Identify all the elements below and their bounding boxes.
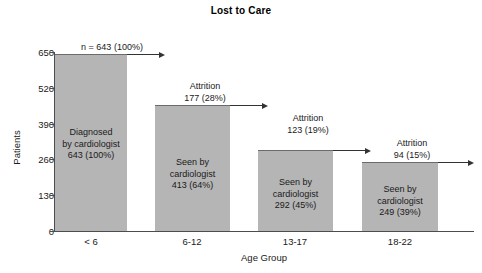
arrow-shaft-18-22 [438,162,468,163]
x-axis-line [54,231,474,232]
arrow-shaft-13-17 [333,150,365,151]
bar-label-line2: cardiologist [362,196,438,208]
chart-title: Lost to Care [0,5,482,16]
y-tick-mark-520 [50,88,54,89]
chart-figure: Lost to Care Patients 0 130 260 390 520 … [0,0,482,273]
y-tick-mark-650 [50,52,54,53]
x-axis-title: Age Group [54,252,474,263]
y-tick-label-0: 0 [20,226,54,237]
arrow-head-icon-18-22 [468,160,474,166]
annotation-attrition-13-17: Attrition 123 (19%) [287,113,329,136]
bar-label-line2: cardiologist [155,169,230,181]
y-tick-label-520: 520 [20,83,54,94]
y-tick-label-390: 390 [20,119,54,130]
x-tick-label-6-12: 6-12 [182,236,201,247]
arrow-shaft-6-12 [230,105,262,106]
y-tick-label-130: 130 [20,190,54,201]
bar-label-line1: Diagnosed [55,127,127,139]
bar-label-line3: 292 (45%) [258,200,333,212]
annotation-line1: Attrition [184,81,226,93]
bar-label-line3: 413 (64%) [155,180,230,192]
arrow-head-icon-lt6 [159,52,165,58]
bar-label-line2: by cardiologist [55,139,127,151]
annotation-line2: 94 (15%) [394,150,431,162]
y-tick-mark-260 [50,159,54,160]
y-tick-label-260: 260 [20,154,54,165]
x-tick-label-18-22: 18-22 [388,236,412,247]
bar-label-age-lt6: Diagnosed by cardiologist 643 (100%) [55,127,127,162]
annotation-line1: Attrition [287,113,329,125]
annotation-attrition-18-22: Attrition 94 (15%) [394,138,431,161]
arrow-head-icon-13-17 [365,148,371,154]
annotation-line1: n = 643 (100%) [81,42,143,54]
y-tick-label-650: 650 [20,47,54,58]
bar-label-age-6-12: Seen by cardiologist 413 (64%) [155,157,230,192]
bar-label-line2: cardiologist [258,189,333,201]
annotation-line2: 123 (19%) [287,125,329,137]
annotation-attrition-6-12: Attrition 177 (28%) [184,81,226,104]
bar-label-line1: Seen by [155,157,230,169]
bar-label-line1: Seen by [258,177,333,189]
annotation-line2: 177 (28%) [184,93,226,105]
y-tick-mark-390 [50,124,54,125]
annotation-line1: Attrition [394,138,431,150]
x-tick-label-13-17: 13-17 [283,236,307,247]
bar-label-line3: 643 (100%) [55,150,127,162]
y-tick-mark-130 [50,195,54,196]
arrow-shaft-lt6 [127,54,159,55]
arrow-head-icon-6-12 [262,103,268,109]
annotation-total-n: n = 643 (100%) [81,42,143,54]
bar-label-age-13-17: Seen by cardiologist 292 (45%) [258,177,333,212]
x-tick-label-lt6: < 6 [84,236,97,247]
bar-label-age-18-22: Seen by cardiologist 249 (39%) [362,184,438,219]
y-tick-mark-0 [50,231,54,232]
bar-label-line3: 249 (39%) [362,207,438,219]
bar-label-line1: Seen by [362,184,438,196]
